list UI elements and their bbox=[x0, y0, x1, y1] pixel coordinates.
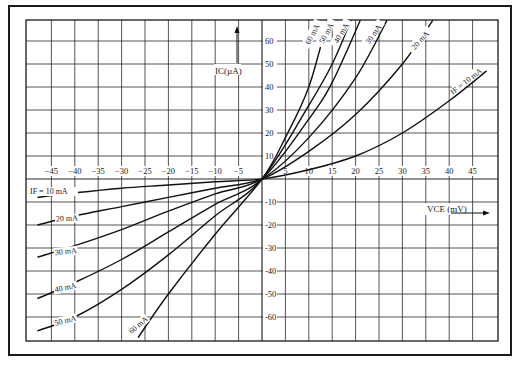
y-tick-label: -20 bbox=[265, 220, 276, 230]
curve-label: 40 mA bbox=[54, 281, 78, 294]
curve-20ma bbox=[37, 20, 432, 225]
x-tick-label: −10 bbox=[209, 166, 222, 176]
curve-40ma bbox=[37, 20, 360, 298]
y-tick-label: -50 bbox=[265, 289, 276, 299]
x-tick-label: −20 bbox=[162, 166, 175, 176]
x-tick-label: 20 bbox=[351, 166, 360, 176]
x-axis-arrow-head bbox=[483, 211, 490, 216]
x-tick-label: 45 bbox=[468, 166, 477, 176]
x-tick-label: −40 bbox=[68, 166, 81, 176]
y-tick-label: 50 bbox=[265, 59, 274, 69]
y-tick-label: -60 bbox=[265, 312, 276, 322]
x-tick-label: −5 bbox=[234, 166, 243, 176]
x-tick-label: −30 bbox=[115, 166, 128, 176]
x-tick-label: 15 bbox=[328, 166, 337, 176]
x-tick-label: −15 bbox=[185, 166, 198, 176]
y-tick-label: -30 bbox=[265, 243, 276, 253]
y-tick-label: -10 bbox=[265, 197, 276, 207]
chart: −45−40−35−30−25−20−15−10−551015202530354… bbox=[0, 0, 523, 366]
y-axis-label: IC(µA) bbox=[215, 66, 242, 76]
y-tick-label: 10 bbox=[265, 151, 274, 161]
x-tick-label: −35 bbox=[92, 166, 105, 176]
y-tick-label: -40 bbox=[265, 266, 276, 276]
y-tick-label: 20 bbox=[265, 128, 274, 138]
curve-label: 50 mA bbox=[54, 313, 78, 327]
x-tick-label: 40 bbox=[445, 166, 454, 176]
curve-30ma bbox=[37, 20, 387, 257]
curve-label: 40 mA bbox=[332, 21, 351, 45]
x-tick-label: −45 bbox=[45, 166, 58, 176]
y-tick-label: 40 bbox=[265, 82, 274, 92]
curve-label: 20 mA bbox=[56, 213, 79, 223]
x-tick-label: 35 bbox=[422, 166, 431, 176]
curve-label: IF = 10 mA bbox=[449, 66, 484, 96]
curve-label: 30 mA bbox=[54, 246, 77, 257]
x-tick-label: −25 bbox=[138, 166, 151, 176]
x-tick-label: 25 bbox=[375, 166, 384, 176]
x-tick-label: 30 bbox=[398, 166, 407, 176]
y-tick-label: 30 bbox=[265, 105, 274, 115]
y-tick-label: 60 bbox=[265, 36, 274, 46]
curve-label: IF = 10 mA bbox=[30, 187, 68, 196]
